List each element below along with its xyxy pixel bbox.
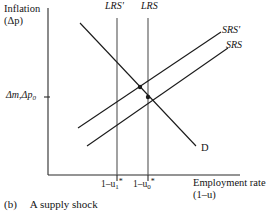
srs-prime-label: SRS' <box>222 25 240 36</box>
x-axis-tick-label-u0-prefix: 1–u <box>133 179 147 189</box>
x-axis-tick-label-u1-superscript: * <box>119 177 123 186</box>
demand-curve <box>80 23 196 146</box>
figure-caption: (b)A supply shock <box>4 199 98 211</box>
figure-caption-text: A supply shock <box>30 198 98 210</box>
x-axis-tick-label-u1-prefix: 1–u <box>101 179 115 189</box>
x-axis-title-line2: (1–u) <box>193 189 266 200</box>
y-axis-title-line2: (Δp) <box>4 15 40 26</box>
y-axis-title: Inflation (Δp) <box>4 3 40 26</box>
x-axis-tick-label-u0-superscript: * <box>151 177 155 186</box>
initial-equilibrium-point <box>146 95 150 99</box>
demand-curve-label: D <box>201 142 209 153</box>
supply-shock-figure: Inflation (Δp) Employment rate (1–u) Δm,… <box>0 0 271 219</box>
y-axis-tick-label: Δm,Δp0 <box>6 90 36 102</box>
lrs-prime-label: LRS' <box>105 1 124 12</box>
figure-caption-tag: (b) <box>4 198 17 210</box>
new-equilibrium-point <box>138 85 142 89</box>
x-axis-title-line1: Employment rate <box>193 177 266 188</box>
srs-prime-curve <box>78 32 221 128</box>
x-axis-tick-label-u1: 1–u1* <box>101 178 123 191</box>
y-axis-title-line1: Inflation <box>4 3 40 14</box>
lrs-label: LRS <box>141 1 158 12</box>
x-axis-title: Employment rate (1–u) <box>193 177 266 200</box>
y-axis-tick-label-text: Δm,Δp <box>6 89 32 100</box>
x-axis-tick-label-u0: 1–u0* <box>133 178 155 191</box>
srs-label: SRS <box>226 40 242 51</box>
srs-curve <box>87 48 228 146</box>
y-axis-tick-label-subscript: 0 <box>32 94 36 102</box>
